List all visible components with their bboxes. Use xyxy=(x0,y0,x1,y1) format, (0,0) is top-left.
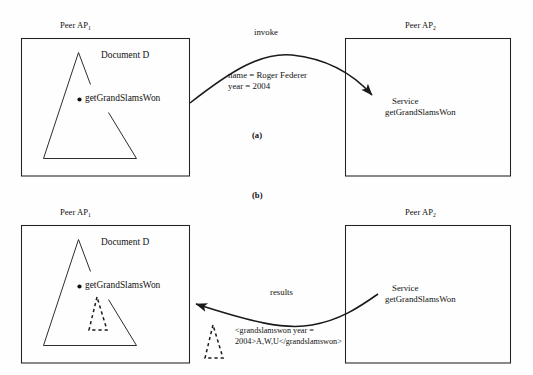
panel-a-service-title: Service xyxy=(392,96,418,106)
figure-canvas: Peer AP1 Document D getGrandSlamsWon inv… xyxy=(0,0,533,375)
panel-b-results-arrow-label: results xyxy=(270,287,293,297)
panel-a-document-triangle-left-leg xyxy=(44,53,79,159)
panel-a-invoke-param-year: year = 2004 xyxy=(228,81,270,91)
diagram-vector-layer xyxy=(0,0,533,375)
panel-b-caption: (b) xyxy=(252,190,263,200)
panel-a-left-peer-label: Peer AP1 xyxy=(60,20,91,31)
panel-a-right-peer-label: Peer AP2 xyxy=(405,20,436,31)
panel-a-service-operation: getGrandSlamsWon xyxy=(385,107,456,117)
panel-a-invoke-arrow-label: invoke xyxy=(254,27,278,37)
panel-b-document-triangle-left-leg xyxy=(44,240,79,346)
panel-b-document-label: Document D xyxy=(101,237,149,248)
panel-a-node-label: getGrandSlamsWon xyxy=(85,93,160,104)
panel-b-service-operation: getGrandSlamsWon xyxy=(385,294,456,304)
panel-a-caption: (a) xyxy=(252,130,262,140)
panel-b-payload-fragment-triangle xyxy=(205,325,223,358)
panel-b-node-label: getGrandSlamsWon xyxy=(85,280,160,291)
panel-b-document-triangle-lower-right-leg xyxy=(109,300,137,346)
panel-b-right-peer-label: Peer AP2 xyxy=(405,207,436,218)
panel-b-document-triangle-upper-right-leg xyxy=(79,240,91,272)
panel-b-result-fragment-triangle xyxy=(89,297,107,330)
panel-a-document-triangle-upper-right-leg xyxy=(79,53,91,85)
panel-a-document-triangle-lower-right-leg xyxy=(109,113,137,159)
panel-b-payload-line-1: <grandslamswon year = xyxy=(235,326,314,336)
panel-a-document-label: Document D xyxy=(101,50,149,61)
panel-b-left-peer-label: Peer AP1 xyxy=(60,207,91,218)
panel-b-payload-line-2: 2004>A,W,U</grandslamswon> xyxy=(235,337,342,347)
panel-b-service-title: Service xyxy=(392,283,418,293)
panel-b-results-arrow xyxy=(196,294,378,326)
panel-a-invoke-param-name: name = Roger Federer xyxy=(228,70,307,80)
panel-a-node-bullet xyxy=(77,97,81,101)
panel-b-node-bullet xyxy=(77,284,81,288)
